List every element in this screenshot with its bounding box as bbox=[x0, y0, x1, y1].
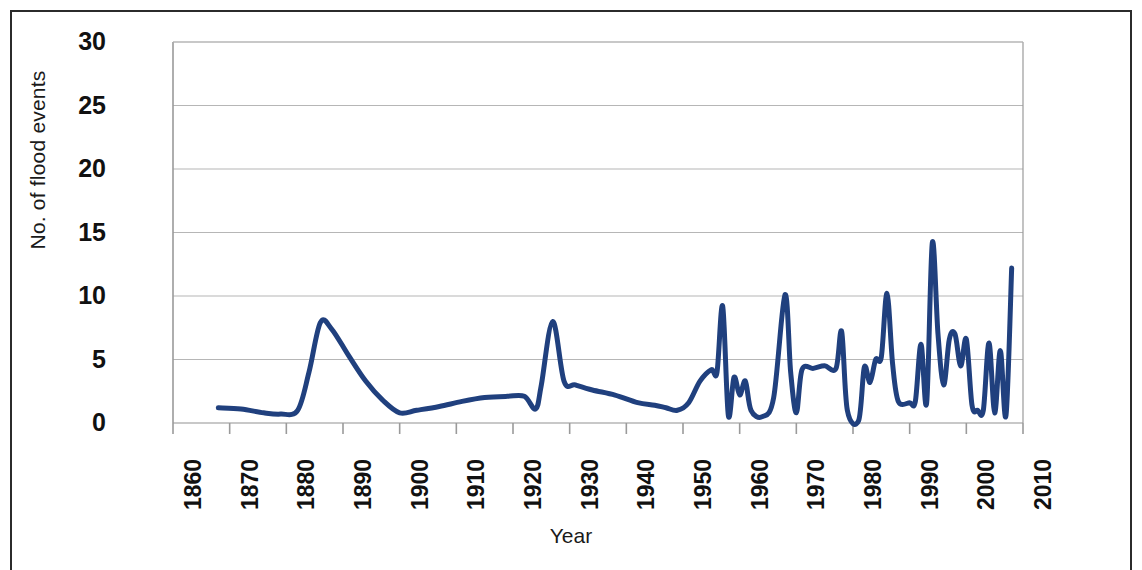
x-tick-label: 1900 bbox=[409, 486, 432, 510]
x-tick-label: 1960 bbox=[749, 486, 772, 510]
y-tick-label: 25 bbox=[46, 93, 106, 118]
series-line-flood-events bbox=[218, 242, 1011, 425]
x-tick-label: 1970 bbox=[805, 486, 828, 510]
y-tick-label: 30 bbox=[46, 29, 106, 54]
x-tick-label: 2010 bbox=[1032, 486, 1055, 510]
x-tick-label: 1930 bbox=[579, 486, 602, 510]
x-tick-label: 1890 bbox=[352, 486, 375, 510]
x-tick-label: 1980 bbox=[862, 486, 885, 510]
data-series-group bbox=[218, 242, 1011, 425]
y-tick-label: 5 bbox=[46, 347, 106, 372]
x-tick-label: 2000 bbox=[975, 486, 998, 510]
x-tick-label: 1940 bbox=[635, 486, 658, 510]
x-tick-label: 1860 bbox=[182, 486, 205, 510]
y-tick-label: 15 bbox=[46, 220, 106, 245]
y-tick-label: 20 bbox=[46, 156, 106, 181]
x-tick-label: 1910 bbox=[465, 486, 488, 510]
x-tick-label: 1880 bbox=[295, 486, 318, 510]
x-tick-label: 1990 bbox=[919, 486, 942, 510]
x-tick-label: 1870 bbox=[239, 486, 262, 510]
x-tick-label: 1920 bbox=[522, 486, 545, 510]
y-tick-label: 10 bbox=[46, 283, 106, 308]
gridlines bbox=[173, 42, 1023, 423]
x-tick-label: 1950 bbox=[692, 486, 715, 510]
x-axis-ticks bbox=[173, 423, 1023, 434]
x-axis-title: Year bbox=[0, 524, 1142, 548]
y-tick-label: 0 bbox=[46, 410, 106, 435]
